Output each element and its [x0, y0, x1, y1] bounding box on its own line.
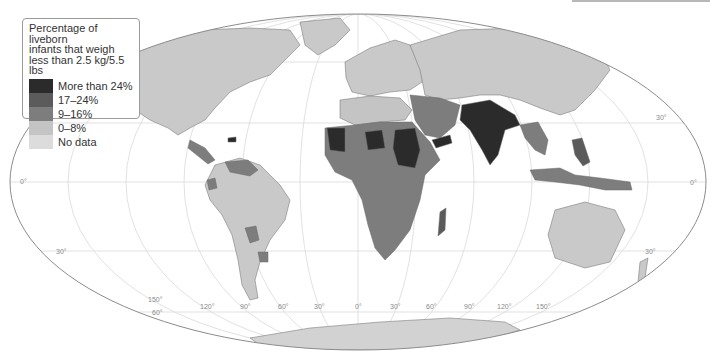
legend-label: 9–16%: [58, 108, 92, 120]
lon-label: 0°: [355, 303, 362, 310]
region-uruguay: [258, 252, 268, 262]
lon-label: 150°: [536, 303, 551, 310]
lon-label: 120°: [200, 303, 215, 310]
lon-label: 60°: [278, 303, 289, 310]
region-niger: [365, 130, 385, 150]
legend-item-more-than-24: More than 24%: [29, 79, 139, 93]
legend-title-line: infants that weigh: [29, 44, 139, 55]
lat-label-30s-right: 30°: [645, 248, 656, 255]
region-haiti: [228, 137, 236, 142]
map-legend: Percentage of liveborn infants that weig…: [22, 18, 140, 119]
region-ecuador: [207, 178, 217, 190]
legend-title: Percentage of liveborn infants that weig…: [29, 23, 139, 76]
lat-label-30n-right: 30°: [656, 114, 667, 121]
legend-swatch: [29, 93, 53, 107]
legend-label: 17–24%: [58, 94, 98, 106]
lat-label-30s-left: 30°: [56, 248, 67, 255]
lon-label: 120°: [497, 303, 512, 310]
legend-title-line: Percentage of liveborn: [29, 23, 139, 44]
region-mauritania: [327, 128, 345, 152]
lon-label: 30°: [390, 303, 401, 310]
lon-label: 90°: [464, 303, 475, 310]
legend-item-0-8: 0–8%: [29, 121, 139, 135]
lon-label: 90°: [240, 303, 251, 310]
legend-label: More than 24%: [58, 80, 133, 92]
legend-item-no-data: No data: [29, 135, 139, 149]
legend-swatch: [29, 79, 53, 93]
lon-label: 150°: [148, 296, 163, 303]
lon-label: 60°: [426, 303, 437, 310]
lat-label-60s-left: 60°: [152, 309, 163, 316]
legend-swatch: [29, 121, 53, 135]
lon-label: 30°: [314, 303, 325, 310]
lat-label-0-left: 0°: [20, 178, 27, 185]
legend-label: No data: [58, 136, 97, 148]
legend-label: 0–8%: [58, 122, 86, 134]
legend-swatch: [29, 135, 53, 149]
legend-title-line: less than 2.5 kg/5.5 lbs: [29, 55, 139, 76]
legend-item-17-24: 17–24%: [29, 93, 139, 107]
region-sudan: [393, 128, 420, 168]
lat-label-0-right: 0°: [690, 179, 697, 186]
legend-item-9-16: 9–16%: [29, 107, 139, 121]
legend-swatch: [29, 107, 53, 121]
